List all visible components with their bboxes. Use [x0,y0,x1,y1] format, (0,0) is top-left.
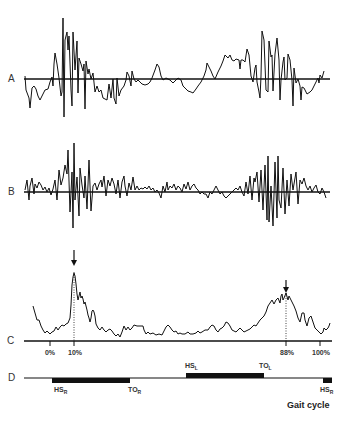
panel-a-trace [24,18,330,117]
tick-label-100: 100% [312,349,330,356]
figure-canvas [0,0,347,422]
stance-bar-right-next [323,378,332,383]
event-hs-right: HSR [54,386,67,395]
stance-bar-left [186,373,264,378]
tick-label-88: 88% [280,349,294,356]
event-hs-left: HSL [185,362,198,371]
panel-b-trace [24,143,330,228]
event-to-right: TOR [128,386,141,395]
peak-arrow-10-percent [71,250,77,266]
event-to-left: TOL [259,362,272,371]
panel-d-timeline [24,373,332,383]
peak-arrow-88-percent [283,280,289,293]
tick-label-10: 10% [68,349,82,356]
gait-cycle-caption: Gait cycle [287,400,330,410]
stance-bar-right [52,378,130,383]
event-hs-right-next: HSR [320,386,333,395]
tick-label-0: 0% [45,349,55,356]
